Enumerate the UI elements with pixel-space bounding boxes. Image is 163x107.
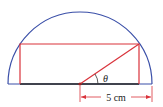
radius-line bbox=[80, 44, 139, 84]
diagram-canvas: θ 5 cm bbox=[0, 0, 163, 107]
angle-label: θ bbox=[103, 73, 108, 84]
angle-arc bbox=[95, 74, 98, 84]
semicircle-arc bbox=[8, 12, 152, 84]
inscribed-rectangle bbox=[20, 44, 139, 84]
arrow-right-icon bbox=[146, 95, 151, 99]
arrow-left-icon bbox=[81, 95, 86, 99]
dimension-label: 5 cm bbox=[106, 92, 126, 103]
center-point bbox=[78, 82, 81, 85]
semicircle-diagram: θ 5 cm bbox=[0, 0, 163, 107]
